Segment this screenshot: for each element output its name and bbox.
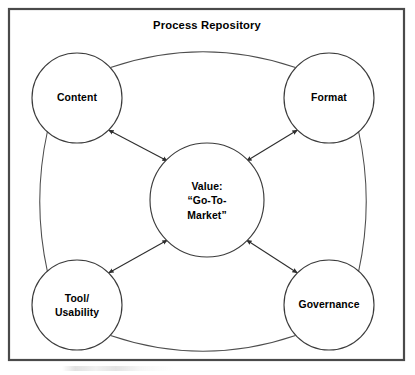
node-circle-tool-usability[interactable] xyxy=(32,260,122,350)
diagram-canvas: Process Repository Content Format Tool/ … xyxy=(0,0,415,375)
node-label-value-line1: Value: xyxy=(191,181,222,192)
node-label-tool-usability-line1: Tool/ xyxy=(65,293,90,304)
node-label-value-line3: Market” xyxy=(187,210,226,221)
process-repository-diagram: Process Repository Content Format Tool/ … xyxy=(0,0,415,375)
diagram-title: Process Repository xyxy=(153,19,261,31)
node-label-format: Format xyxy=(311,92,347,103)
node-label-value-line2: “Go-To- xyxy=(187,195,227,206)
node-label-content: Content xyxy=(57,92,97,103)
node-label-tool-usability-line2: Usability xyxy=(55,307,99,318)
node-label-governance: Governance xyxy=(298,299,359,310)
